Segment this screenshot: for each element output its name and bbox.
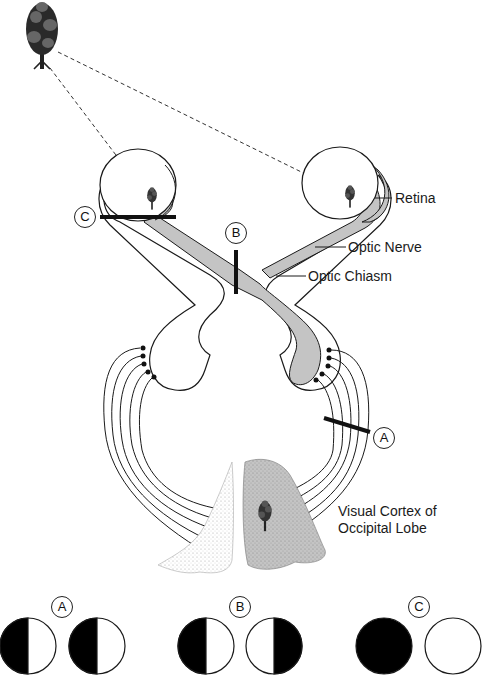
lesion-a-bar (324, 418, 370, 432)
optic-nerve-label: Optic Nerve (348, 239, 422, 255)
tree-object-icon (26, 2, 58, 69)
retina-label: Retina (395, 190, 435, 206)
field-c-right-eye (425, 618, 481, 674)
visual-pathway-diagram (0, 0, 490, 691)
lesion-b-bar (234, 250, 238, 294)
lesion-marker-b: B (225, 222, 247, 244)
visual-cortex-label: Visual Cortex of Occipital Lobe (338, 503, 437, 537)
lesion-c-bar (100, 215, 176, 219)
field-b-right-eye (246, 618, 302, 674)
field-marker-b: B (229, 596, 251, 618)
field-a-left-eye (0, 618, 56, 674)
optic-chiasm-label: Optic Chiasm (308, 268, 392, 284)
visual-cortex-label-line2: Occipital Lobe (338, 520, 437, 537)
visual-cortex-label-line1: Visual Cortex of (338, 503, 437, 520)
field-a-right-eye (69, 618, 125, 674)
right-occipital-cortex (243, 459, 325, 569)
lesion-marker-c: C (74, 206, 96, 228)
field-c-left-eye (356, 618, 412, 674)
field-marker-a: A (51, 596, 73, 618)
visual-field-results (0, 618, 481, 674)
field-marker-c: C (408, 596, 430, 618)
left-eye (100, 149, 176, 221)
field-b-left-eye (178, 618, 234, 674)
lesion-marker-a: A (373, 427, 395, 449)
